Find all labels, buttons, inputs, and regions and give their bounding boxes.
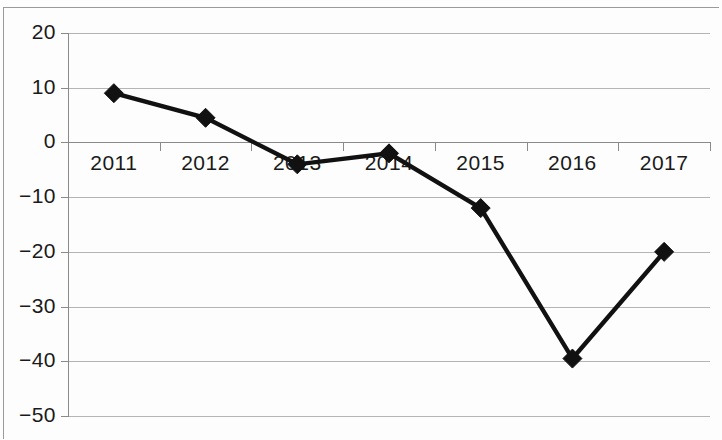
data-point-marker [380, 144, 399, 163]
data-point-marker [104, 84, 123, 103]
data-point-marker [288, 155, 307, 174]
data-point-marker [471, 199, 490, 218]
data-series [0, 0, 722, 440]
data-point-marker [196, 108, 215, 127]
line-chart: 20100−10−20−30−40−50 2011201220132014201… [0, 0, 722, 440]
plot-area: 20100−10−20−30−40−50 2011201220132014201… [0, 0, 722, 440]
series-markers [104, 84, 673, 368]
series-line [114, 93, 664, 358]
